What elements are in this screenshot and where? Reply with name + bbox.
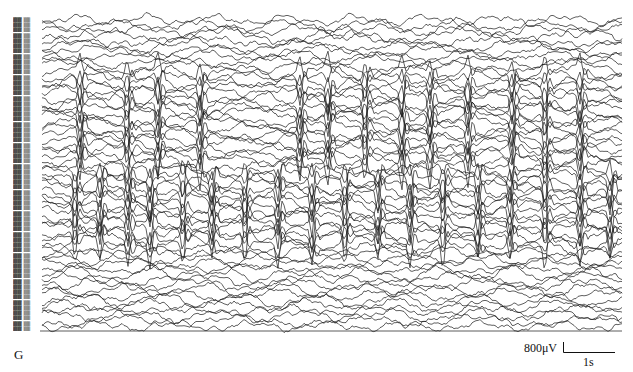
eeg-channel-trace: [42, 298, 622, 313]
scale-bar-amplitude-label: 800μV: [505, 341, 557, 356]
eeg-channel-trace: [42, 44, 622, 59]
scale-bar-time-label: 1s: [583, 355, 594, 370]
eeg-channel-trace: [42, 291, 622, 309]
eeg-channel-trace: [42, 271, 622, 287]
panel-letter: G: [14, 347, 23, 363]
eeg-channel-trace: [42, 262, 622, 276]
eeg-channel-trace: [42, 13, 622, 27]
eeg-channel-trace: [42, 208, 622, 253]
eeg-traces-plot: [0, 0, 633, 372]
eeg-figure: ▓▓▓▓ ▒▒▒▓▓▓▓ ▒▒▒▓▓▓▓ ▒▒▒▓▓▓▓ ▒▒▒▓▓▓▓ ▒▒▒…: [0, 0, 633, 372]
scale-bar: [564, 342, 616, 353]
